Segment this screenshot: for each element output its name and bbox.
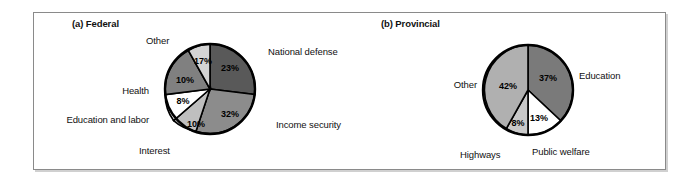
pie-value-education-and-labor: 8%	[176, 96, 189, 106]
pie-value-national-defense: 23%	[221, 63, 239, 73]
category-label-other: Other	[146, 35, 169, 46]
category-label-education-and-labor: Education and labor	[46, 114, 149, 125]
chart-panel-federal: (a) Federal	[34, 13, 374, 169]
category-label-national-defense: National defense	[268, 46, 338, 57]
category-label-health: Health	[97, 85, 149, 96]
panel-title-provincial: (b) Provincial	[381, 18, 440, 29]
panel-title-federal: (a) Federal	[72, 18, 119, 29]
category-label-income-security: Income security	[276, 119, 341, 130]
pie-value-education: 37%	[539, 73, 557, 83]
pie-value-highways: 8%	[511, 118, 524, 128]
pie-value-other: 42%	[499, 81, 517, 91]
pie-chart-provincial: 37% 13% 8% 42%	[482, 33, 574, 147]
pie-value-income-security: 32%	[221, 109, 239, 119]
category-label-interest: Interest	[139, 145, 170, 156]
category-label-public-welfare: Public welfare	[532, 146, 590, 157]
category-label-education: Education	[579, 70, 620, 81]
pie-value-health: 10%	[176, 75, 194, 85]
category-label-other: Other	[422, 79, 477, 90]
pie-value-public-welfare: 13%	[530, 113, 548, 123]
category-label-highways: Highways	[460, 149, 500, 160]
pie-value-other: 17%	[194, 56, 212, 66]
pie-chart-federal: 23% 32% 10% 8% 10% 17%	[164, 31, 256, 147]
chart-panel-provincial: (b) Provincial 37% 13% 8% 42%	[374, 13, 667, 169]
pie-value-interest: 10%	[187, 119, 205, 129]
figure-frame: (a) Federal	[33, 12, 666, 170]
